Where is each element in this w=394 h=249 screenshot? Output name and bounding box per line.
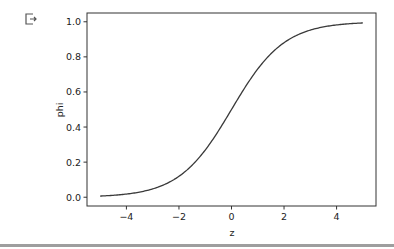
cell-divider	[0, 244, 394, 247]
y-tick-label: 0.4	[66, 122, 81, 133]
y-tick-label: 0.0	[66, 192, 81, 203]
x-tick-label: 2	[281, 211, 287, 222]
x-axis-label: z	[230, 227, 235, 238]
x-tick-label: 4	[334, 211, 340, 222]
y-tick-label: 0.2	[66, 157, 81, 168]
series-line-sigmoid	[100, 23, 363, 196]
y-tick-label: 0.6	[66, 86, 81, 97]
y-axis-label: phi	[54, 103, 65, 118]
x-tick-label: −2	[172, 211, 186, 222]
sigmoid-chart: −4−2024 0.00.20.40.60.81.0 z phi	[0, 0, 394, 249]
x-axis: −4−2024	[119, 206, 339, 222]
y-tick-label: 1.0	[66, 16, 81, 27]
x-tick-label: −4	[119, 211, 133, 222]
y-tick-label: 0.8	[66, 51, 81, 62]
x-tick-label: 0	[228, 211, 234, 222]
y-axis: 0.00.20.40.60.81.0	[66, 16, 87, 202]
